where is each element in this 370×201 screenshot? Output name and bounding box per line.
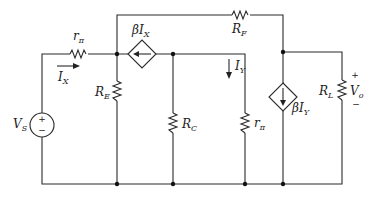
current-iy-arrow — [226, 59, 232, 79]
node-bottom-3 — [243, 182, 247, 186]
resistor-re — [113, 81, 121, 101]
dependent-source-beta-ix — [128, 40, 156, 68]
label-beta-iy: βIY — [291, 101, 310, 117]
label-vs: VS — [13, 117, 28, 133]
current-ix-arrow — [57, 63, 80, 69]
wire-rl-top — [283, 52, 342, 80]
resistor-rc — [169, 113, 177, 133]
label-rc: RC — [181, 117, 197, 133]
circuit-diagram: rπ IX + − VS βIX RE RC rπ IY RF βIY — [0, 0, 370, 201]
resistor-rpi-shunt — [241, 113, 249, 133]
label-vo: Vo — [350, 84, 364, 100]
wire-node2-to-rpi — [156, 54, 245, 113]
vo-plus-sign: + — [351, 70, 359, 80]
vs-plus-sign: + — [38, 114, 46, 124]
resistor-rl — [338, 80, 346, 100]
label-ix: IX — [57, 70, 69, 86]
node-bottom-2 — [171, 182, 175, 186]
resistor-rpi-series — [70, 50, 86, 58]
label-rl: RL — [318, 84, 333, 100]
label-beta-ix: βIX — [131, 23, 150, 39]
vs-minus-sign: − — [38, 125, 46, 135]
wires — [42, 15, 342, 184]
vo-minus-sign: − — [352, 99, 360, 109]
label-re: RE — [94, 85, 110, 101]
node-bottom-1 — [115, 182, 119, 186]
node-mid-top — [171, 52, 175, 56]
label-iy: IY — [234, 59, 246, 75]
node-left-top — [115, 52, 119, 56]
label-rpi-series: rπ — [73, 29, 85, 45]
wire-feedback-right — [250, 15, 283, 52]
voltage-source-vs: + − — [30, 113, 54, 137]
wire-ground-bus — [42, 137, 342, 184]
label-rpi-shunt: rπ — [254, 116, 266, 132]
label-rf: RF — [231, 22, 247, 38]
resistor-rf — [232, 11, 248, 19]
node-bottom-4 — [281, 182, 285, 186]
node-right-top — [281, 50, 285, 54]
